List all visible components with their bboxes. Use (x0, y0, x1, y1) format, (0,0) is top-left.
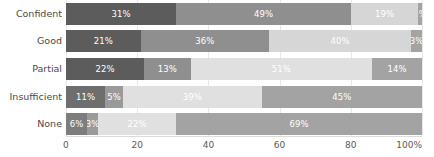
plot-area: 31%49%19%1%21%36%40%3%22%13%51%14%11%5%3… (66, 0, 422, 136)
bar-segment[interactable]: 36% (141, 30, 269, 52)
bar-segment-label: 39% (183, 93, 202, 102)
gridline-100 (422, 0, 423, 136)
bar-row[interactable]: 6%3%22%69% (66, 113, 422, 135)
bar-segment[interactable]: 14% (372, 58, 422, 80)
bar-segment-label: 51% (272, 65, 291, 74)
bar-segment[interactable]: 49% (176, 3, 350, 25)
bar-segment[interactable]: 31% (66, 3, 176, 25)
bar-row[interactable]: 11%5%39%45% (66, 86, 422, 108)
bar-segment[interactable]: 1% (418, 3, 422, 25)
bar-segment[interactable]: 6% (66, 113, 87, 135)
bar-segment-label: 36% (195, 37, 214, 46)
x-tick-label-100: 100% (396, 140, 422, 150)
x-tick-label-20: 20 (131, 140, 142, 150)
bar-row[interactable]: 21%36%40%3% (66, 30, 422, 52)
bar-segment-label: 11% (76, 93, 95, 102)
bar-segment-label: 5% (107, 93, 121, 102)
bar-segment[interactable]: 69% (176, 113, 422, 135)
bar-segment-label: 13% (158, 65, 177, 74)
bar-segment-label: 45% (332, 93, 351, 102)
category-label-partial: Partial (0, 58, 62, 80)
x-tick-label-40: 40 (203, 140, 214, 150)
x-tick-label-60: 60 (274, 140, 285, 150)
bar-segment[interactable]: 3% (411, 30, 422, 52)
bar-segment-label: 31% (112, 10, 131, 19)
bar-segment-label: 21% (94, 37, 113, 46)
x-axis-line (66, 136, 422, 137)
bar-segment-label: 22% (128, 120, 147, 129)
bar-segment-label: 49% (254, 10, 273, 19)
category-label-none: None (0, 113, 62, 135)
y-axis: ConfidentGoodPartialInsufficientNone (0, 0, 62, 136)
bar-segment[interactable]: 22% (98, 113, 176, 135)
bar-segment[interactable]: 13% (144, 58, 190, 80)
bar-segment[interactable]: 3% (87, 113, 98, 135)
bar-segment[interactable]: 19% (351, 3, 419, 25)
bar-segment[interactable]: 51% (191, 58, 373, 80)
bar-segment-label: 14% (387, 65, 406, 74)
x-axis: 020406080100% (66, 136, 422, 157)
bar-segment-label: 3% (411, 37, 422, 46)
bar-segment[interactable]: 11% (66, 86, 105, 108)
bar-segment-label: 3% (87, 120, 98, 129)
category-label-confident: Confident (0, 3, 62, 25)
bar-segment[interactable]: 45% (262, 86, 422, 108)
bar-segment-label: 19% (375, 10, 394, 19)
bar-segment-label: 69% (290, 120, 309, 129)
category-label-insufficient: Insufficient (0, 86, 62, 108)
bar-row[interactable]: 31%49%19%1% (66, 3, 422, 25)
x-tick-label-80: 80 (345, 140, 356, 150)
bar-segment-label: 40% (331, 37, 350, 46)
bar-segment-label: 6% (70, 120, 84, 129)
bar-segment-label: 22% (96, 65, 115, 74)
bar-segment[interactable]: 22% (66, 58, 144, 80)
bar-segment-label: 1% (418, 10, 422, 19)
bar-row[interactable]: 22%13%51%14% (66, 58, 422, 80)
bar-segment[interactable]: 40% (269, 30, 411, 52)
bar-segment[interactable]: 5% (105, 86, 123, 108)
bar-segment[interactable]: 21% (66, 30, 141, 52)
category-label-good: Good (0, 30, 62, 52)
bar-segment[interactable]: 39% (123, 86, 262, 108)
stacked-bar-chart: ConfidentGoodPartialInsufficientNone 31%… (0, 0, 434, 157)
x-tick-label-0: 0 (63, 140, 69, 150)
